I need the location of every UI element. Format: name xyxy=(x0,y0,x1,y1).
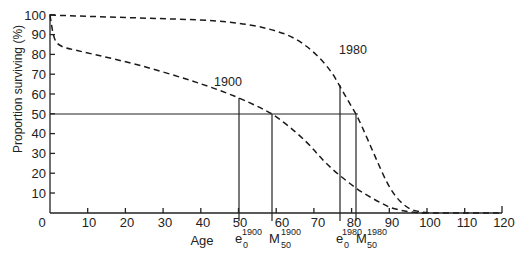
m50-1980-sub: 50 xyxy=(367,240,377,250)
y-tick-30: 30 xyxy=(32,146,46,161)
marker-e0-1900: e 0 1900 xyxy=(235,227,262,250)
e0-1900-sup: 1900 xyxy=(242,227,262,237)
m50-1900-main: M xyxy=(269,231,280,246)
x-tick-20: 20 xyxy=(120,215,134,230)
x-tick-30: 30 xyxy=(158,215,172,230)
curve-label-1900: 1900 xyxy=(214,75,242,89)
m50-1900-sup: 1900 xyxy=(281,227,301,237)
y-tick-40: 40 xyxy=(32,126,46,141)
y-tick-100: 100 xyxy=(24,8,46,23)
marker-m50-1900: M 50 1900 xyxy=(269,227,301,250)
x-tick-120: 120 xyxy=(493,215,515,230)
y-tick-60: 60 xyxy=(32,87,46,102)
m50-1900-sub: 50 xyxy=(281,240,291,250)
y-tick-20: 20 xyxy=(32,166,46,181)
y-tick-labels: 100 90 80 70 60 50 40 30 20 10 xyxy=(24,8,46,201)
x-tick-110: 110 xyxy=(457,215,478,230)
y-tick-70: 70 xyxy=(32,67,46,82)
survival-chart: 100 90 80 70 60 50 40 30 20 10 0 10 20 3… xyxy=(0,0,530,258)
curve-label-1980: 1980 xyxy=(339,43,367,57)
y-tick-10: 10 xyxy=(32,186,46,201)
marker-m50-1980: M 50 1980 xyxy=(356,227,387,250)
x-axis-title: Age xyxy=(190,233,213,248)
x-tick-10: 10 xyxy=(82,215,96,230)
x-ticks xyxy=(88,206,502,213)
m50-1980-sup: 1980 xyxy=(367,227,387,237)
e0-1900-sub: 0 xyxy=(243,240,248,250)
y-axis-title: Proportion surviving (%) xyxy=(11,25,25,153)
x-tick-40: 40 xyxy=(196,215,210,230)
reference-lines xyxy=(50,85,358,221)
y-ticks xyxy=(50,15,55,193)
y-tick-90: 90 xyxy=(32,27,46,42)
y-tick-80: 80 xyxy=(32,47,46,62)
m50-1980-main: M xyxy=(356,231,367,246)
y-tick-50: 50 xyxy=(32,107,46,122)
x-tick-70: 70 xyxy=(311,215,325,230)
origin-label: 0 xyxy=(38,215,45,230)
x-tick-100: 100 xyxy=(419,215,441,230)
e0-1980-sub: 0 xyxy=(344,240,349,250)
